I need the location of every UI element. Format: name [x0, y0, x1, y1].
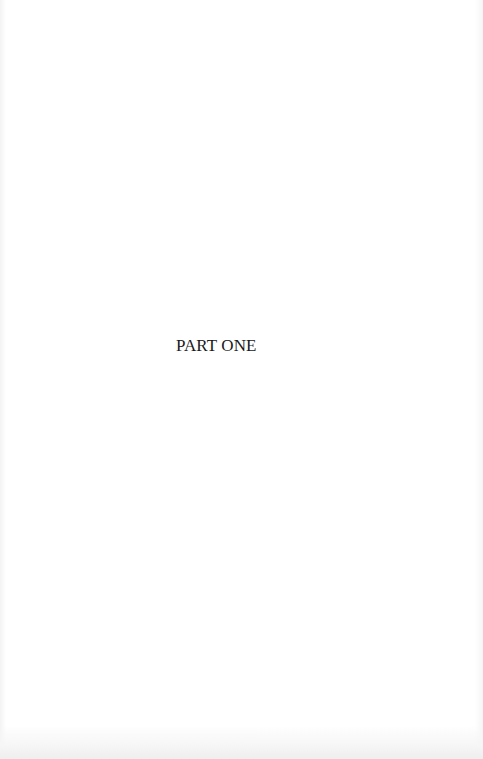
page-edge-shadow-bottom: [0, 725, 483, 759]
part-heading: PART ONE: [176, 336, 257, 356]
page-edge-shadow-right: [475, 0, 483, 759]
book-page: PART ONE: [0, 0, 483, 759]
page-edge-shadow-left: [0, 0, 6, 759]
